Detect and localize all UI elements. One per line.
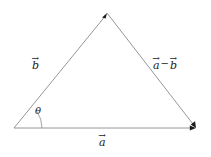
vector-a-minus-b-label: →a−→b (153, 56, 177, 71)
vector-triangle-figure: →b →a−→b →a θ (0, 0, 211, 157)
vector-a-minus-b-line (107, 13, 193, 125)
vector-b-arrow-accent-2: → (170, 54, 178, 63)
vector-b-line (14, 16, 106, 128)
angle-theta-label: θ (35, 106, 41, 116)
vector-a-minus-b-shape (107, 13, 196, 128)
vector-b-shape (14, 13, 107, 128)
vector-b-arrowhead (102, 13, 107, 19)
vector-b-label: →b (32, 56, 39, 71)
vector-a-minus-b-second-term: →b (170, 56, 177, 71)
vector-a-minus-b-first-term: →a (153, 56, 160, 71)
vector-b-arrow-accent: → (32, 54, 40, 63)
vector-a-notation: →a (99, 133, 106, 148)
minus-operator: − (160, 59, 170, 69)
vector-b-notation: →b (32, 56, 39, 71)
vector-a-arrow-accent-2: → (152, 54, 160, 63)
vector-a-label: →a (99, 133, 106, 148)
vector-a-arrow-accent: → (98, 131, 106, 140)
